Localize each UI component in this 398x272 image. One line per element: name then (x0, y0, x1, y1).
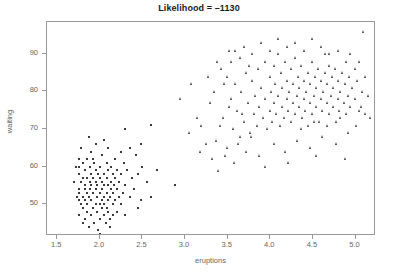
data-point (358, 60, 360, 63)
data-point (116, 188, 118, 190)
data-point (313, 120, 315, 123)
data-point (250, 135, 252, 138)
data-point (303, 49, 305, 52)
data-point (220, 67, 222, 70)
data-point (337, 97, 339, 100)
data-point (216, 60, 218, 63)
data-point (303, 97, 305, 100)
data-point (106, 207, 108, 209)
data-point (190, 82, 192, 85)
data-point (301, 116, 303, 119)
data-point (110, 188, 112, 190)
data-point (362, 30, 364, 33)
data-point (95, 203, 97, 205)
data-point (90, 214, 92, 216)
data-point (88, 226, 90, 228)
data-point (78, 214, 80, 216)
data-point (84, 199, 86, 201)
data-point (140, 143, 142, 145)
data-point (317, 67, 319, 70)
data-point (116, 211, 118, 213)
data-point (355, 124, 357, 127)
data-point (279, 124, 281, 127)
data-point (322, 90, 324, 93)
data-point (334, 67, 336, 70)
data-point (150, 124, 152, 126)
data-point (86, 192, 88, 194)
data-point (226, 75, 228, 78)
data-point (348, 75, 350, 78)
data-point (315, 105, 317, 108)
data-point (120, 173, 122, 175)
data-point (339, 90, 341, 93)
data-point (275, 112, 277, 115)
data-point (95, 169, 97, 171)
data-point (230, 97, 232, 100)
data-point (107, 199, 109, 201)
data-point (75, 166, 77, 168)
data-point (82, 222, 84, 224)
data-point (84, 169, 86, 171)
data-point (332, 86, 334, 89)
data-point (337, 49, 339, 52)
y-tick-label: 80 (30, 86, 38, 94)
y-tick-label: 90 (30, 49, 38, 57)
x-tick-mark (99, 235, 100, 239)
data-point (273, 101, 275, 104)
data-point (277, 94, 279, 97)
data-point (326, 124, 328, 127)
data-point (260, 86, 262, 89)
data-point (95, 188, 97, 190)
data-point (88, 136, 90, 138)
data-point (274, 82, 276, 85)
data-point (347, 94, 349, 97)
data-point (90, 199, 92, 201)
data-point (174, 184, 176, 186)
data-point (140, 199, 142, 201)
data-point (96, 211, 98, 213)
x-tick-label: 3.5 (212, 241, 242, 249)
x-tick-label: 4.0 (254, 241, 284, 249)
data-point (76, 196, 78, 198)
data-point (93, 162, 95, 164)
data-point (123, 162, 125, 164)
data-point (320, 79, 322, 82)
data-point (82, 162, 84, 164)
data-point (118, 196, 120, 198)
x-tick-label: 5.0 (340, 241, 370, 249)
data-point (89, 166, 91, 168)
data-point (96, 196, 98, 198)
data-point (290, 120, 292, 123)
data-point (318, 120, 320, 123)
data-point (124, 184, 126, 186)
x-tick-label: 3.0 (169, 241, 199, 249)
data-point (99, 177, 101, 179)
data-point (131, 177, 133, 179)
data-point (280, 71, 282, 74)
data-point (90, 184, 92, 186)
data-point (341, 71, 343, 74)
data-point (226, 146, 228, 149)
data-point (124, 128, 126, 130)
data-point (233, 161, 235, 164)
data-point (286, 79, 288, 82)
data-point (273, 142, 275, 145)
data-point (298, 105, 300, 108)
data-point (84, 218, 86, 220)
data-point (270, 90, 272, 93)
data-point (107, 184, 109, 186)
data-point (286, 45, 288, 48)
data-point (112, 192, 114, 194)
x-tick-mark (269, 235, 270, 239)
data-point (321, 135, 323, 138)
data-point (369, 116, 371, 119)
y-tick-label: 70 (30, 124, 38, 132)
data-point (264, 97, 266, 100)
data-point (258, 154, 260, 157)
data-point (349, 52, 351, 55)
data-point (86, 177, 88, 179)
data-point (331, 75, 333, 78)
data-point (324, 52, 326, 55)
data-point (247, 101, 249, 104)
data-point (266, 127, 268, 130)
